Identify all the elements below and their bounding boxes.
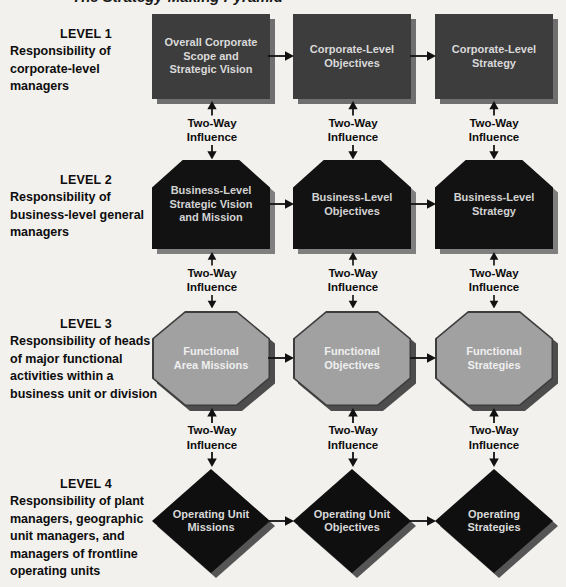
node-operating-unit-missions: Operating Unit Missions [152, 469, 270, 573]
arrow-down-icon [347, 452, 359, 467]
level-1-description: Responsibility of corporate-level manage… [10, 43, 162, 96]
two-way-line1: Two-Way [469, 266, 519, 281]
two-way-influence-label: Two-Way Influence [328, 266, 378, 295]
two-way-influence-label: Two-Way Influence [187, 266, 237, 295]
two-way-line1: Two-Way [187, 423, 237, 438]
two-way-influence-label: Two-Way Influence [469, 116, 519, 145]
node-label: Business-Level Strategic Vision and Miss… [152, 160, 270, 249]
arrow-up-icon [347, 252, 359, 266]
node-label: Operating Unit Missions [152, 469, 270, 573]
two-way-influence-label: Two-Way Influence [328, 116, 378, 145]
node-corporate-level-objectives: Corporate-Level Objectives [293, 14, 411, 99]
arrow-up-icon [206, 408, 218, 423]
two-way-line2: Influence [187, 130, 237, 145]
node-corporate-level-strategy: Corporate-Level Strategy [435, 14, 553, 99]
two-way-line1: Two-Way [328, 116, 378, 131]
level-1-label-block: LEVEL 1 Responsibility of corporate-leve… [10, 26, 162, 96]
node-label: Operating Unit Objectives [293, 469, 411, 573]
flow-arrow-right [410, 515, 436, 527]
two-way-influence-connector: Two-Way Influence [171, 101, 253, 159]
arrow-down-icon [206, 295, 218, 309]
level-3-label-block: LEVEL 3 Responsibility of heads of major… [10, 316, 162, 403]
two-way-line2: Influence [328, 438, 378, 453]
node-label: Overall Corporate Scope and Strategic Vi… [152, 14, 270, 99]
two-way-influence-connector: Two-Way Influence [312, 408, 394, 467]
node-functional-strategies: Functional Strategies [435, 311, 553, 406]
node-functional-objectives: Functional Objectives [293, 311, 411, 406]
node-label: Corporate-Level Strategy [435, 14, 553, 99]
arrow-down-icon [347, 295, 359, 309]
arrow-down-icon [206, 452, 218, 467]
arrow-up-icon [488, 252, 500, 266]
two-way-influence-label: Two-Way Influence [187, 116, 237, 145]
arrow-up-icon [347, 408, 359, 423]
two-way-influence-label: Two-Way Influence [187, 423, 237, 452]
two-way-line1: Two-Way [328, 266, 378, 281]
arrow-down-icon [488, 452, 500, 467]
clipped-figure-title-text: The Strategy-Making Pyramid [72, 0, 372, 5]
arrow-up-icon [488, 101, 500, 116]
node-business-level-vision-mission: Business-Level Strategic Vision and Miss… [152, 160, 270, 249]
node-label: Functional Area Missions [152, 311, 270, 406]
two-way-line1: Two-Way [187, 116, 237, 131]
flow-arrow-right [268, 198, 294, 210]
arrow-up-icon [206, 252, 218, 266]
arrow-up-icon [488, 408, 500, 423]
two-way-influence-connector: Two-Way Influence [312, 101, 394, 159]
two-way-line1: Two-Way [469, 423, 519, 438]
node-label: Functional Strategies [435, 311, 553, 406]
arrow-down-icon [488, 145, 500, 160]
arrow-down-icon [206, 145, 218, 160]
two-way-influence-label: Two-Way Influence [328, 423, 378, 452]
two-way-influence-connector: Two-Way Influence [453, 408, 535, 467]
arrow-up-icon [347, 101, 359, 116]
two-way-line2: Influence [187, 438, 237, 453]
clipped-figure-title: The Strategy-Making Pyramid [72, 0, 372, 6]
strategy-pyramid-diagram: The Strategy-Making Pyramid LEVEL 1 Resp… [0, 0, 566, 587]
node-label: Operating Strategies [435, 469, 553, 573]
two-way-influence-label: Two-Way Influence [469, 423, 519, 452]
level-4-description: Responsibility of plant managers, geogra… [10, 493, 162, 581]
two-way-line1: Two-Way [328, 423, 378, 438]
flow-arrow-right [410, 352, 436, 364]
flow-arrow-right [410, 50, 436, 62]
node-label: Corporate-Level Objectives [293, 14, 411, 99]
level-4-heading: LEVEL 4 [10, 476, 162, 493]
two-way-influence-connector: Two-Way Influence [453, 252, 535, 308]
arrow-down-icon [488, 295, 500, 309]
flow-arrow-right [410, 198, 436, 210]
node-business-level-strategy: Business-Level Strategy [435, 160, 553, 249]
two-way-line2: Influence [469, 438, 519, 453]
arrow-down-icon [347, 145, 359, 160]
two-way-influence-connector: Two-Way Influence [171, 252, 253, 308]
two-way-influence-connector: Two-Way Influence [312, 252, 394, 308]
node-label: Business-Level Strategy [435, 160, 553, 249]
node-business-level-objectives: Business-Level Objectives [293, 160, 411, 249]
level-3-heading: LEVEL 3 [10, 316, 162, 333]
node-operating-strategies: Operating Strategies [435, 469, 553, 573]
level-2-description: Responsibility of business-level general… [10, 189, 162, 242]
level-1-heading: LEVEL 1 [10, 26, 162, 43]
arrow-up-icon [206, 101, 218, 116]
two-way-line2: Influence [187, 280, 237, 295]
node-functional-area-missions: Functional Area Missions [152, 311, 270, 406]
node-overall-corporate-scope: Overall Corporate Scope and Strategic Vi… [152, 14, 270, 99]
two-way-influence-connector: Two-Way Influence [171, 408, 253, 467]
two-way-line2: Influence [328, 130, 378, 145]
two-way-influence-connector: Two-Way Influence [453, 101, 535, 159]
two-way-line2: Influence [469, 130, 519, 145]
two-way-line1: Two-Way [469, 116, 519, 131]
level-4-label-block: LEVEL 4 Responsibility of plant managers… [10, 476, 162, 581]
node-label: Business-Level Objectives [293, 160, 411, 249]
level-3-description: Responsibility of heads of major functio… [10, 333, 162, 403]
two-way-influence-label: Two-Way Influence [469, 266, 519, 295]
two-way-line1: Two-Way [187, 266, 237, 281]
node-operating-unit-objectives: Operating Unit Objectives [293, 469, 411, 573]
two-way-line2: Influence [328, 280, 378, 295]
flow-arrow-right [268, 352, 294, 364]
flow-arrow-right [268, 515, 294, 527]
level-2-heading: LEVEL 2 [10, 172, 162, 189]
flow-arrow-right [268, 50, 294, 62]
node-label: Functional Objectives [293, 311, 411, 406]
level-2-label-block: LEVEL 2 Responsibility of business-level… [10, 172, 162, 242]
